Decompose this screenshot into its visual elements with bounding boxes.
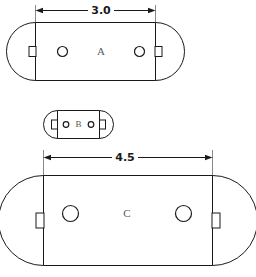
part-c: C — [0, 176, 256, 266]
part-a-notch-right — [155, 47, 162, 57]
dimension-4-5: 4.5 — [44, 150, 213, 178]
part-a-hole-left — [58, 47, 68, 57]
arrowhead-right-c — [205, 155, 213, 160]
part-b: B — [44, 111, 114, 139]
part-b-hole-left — [63, 122, 69, 128]
dimension-label-3-0: 3.0 — [91, 4, 111, 17]
technical-drawing: 3.0 A B — [0, 0, 256, 277]
arrowhead-left-a — [36, 8, 44, 13]
part-b-hole-right — [88, 122, 94, 128]
arrowhead-left-c — [44, 155, 52, 160]
part-b-notch-right — [100, 120, 106, 129]
part-a-label: A — [97, 45, 105, 57]
part-a: A — [6, 23, 184, 81]
part-c-notch-right — [212, 213, 220, 228]
part-a-hole-right — [135, 47, 145, 57]
part-c-label: C — [123, 207, 130, 219]
dimension-label-4-5: 4.5 — [115, 151, 135, 164]
part-c-hole-right — [176, 206, 192, 222]
part-b-notch-left — [52, 120, 58, 129]
part-a-notch-left — [29, 47, 36, 57]
part-c-notch-left — [36, 213, 44, 228]
part-b-label: B — [75, 119, 81, 129]
arrowhead-right-a — [148, 8, 156, 13]
part-c-hole-left — [63, 206, 79, 222]
